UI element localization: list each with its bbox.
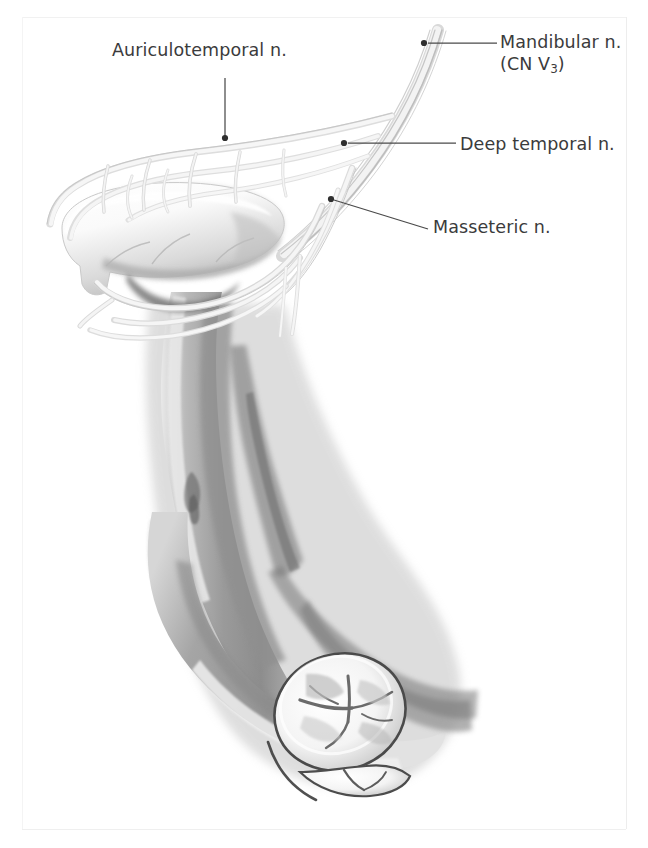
label-cn-subscript: 3 <box>550 62 558 76</box>
label-mandibular-nerve: Mandibular n. (CN V3) <box>500 31 621 77</box>
figure-page: Auriculotemporal n. Mandibular n. (CN V3… <box>0 0 648 848</box>
label-auriculotemporal-nerve: Auriculotemporal n. <box>112 39 287 61</box>
second-molar <box>300 765 410 796</box>
label-masseteric-nerve: Masseteric n. <box>433 216 551 238</box>
label-cn-suffix: ) <box>558 54 565 74</box>
anatomy-illustration <box>0 0 648 848</box>
leader-dot-auriculotemporal <box>222 135 228 141</box>
leader-masseteric <box>334 200 428 229</box>
leader-dot-masseteric <box>328 196 334 202</box>
label-cn-prefix: (CN V <box>500 54 550 74</box>
label-mandibular-line1: Mandibular n. <box>500 32 621 52</box>
label-deep-temporal-nerve: Deep temporal n. <box>460 133 615 155</box>
leader-dot-mandibular <box>421 40 427 46</box>
nerves <box>47 30 446 338</box>
leader-dot-deep-temporal <box>341 140 347 146</box>
label-mandibular-line2: (CN V3) <box>500 54 565 74</box>
